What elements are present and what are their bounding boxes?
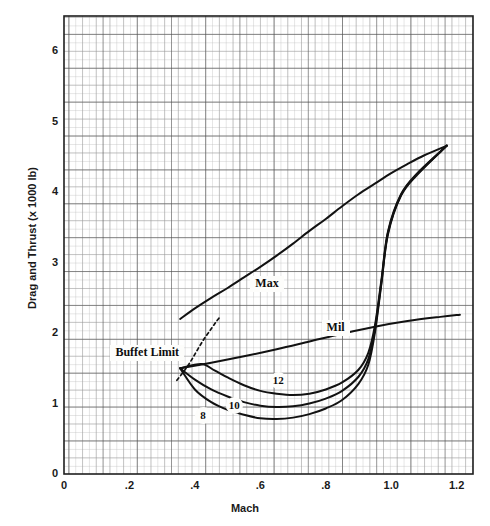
y-tick-0: 0 [38,467,58,479]
y-tick-2: 2 [38,326,58,338]
x-tick-1p0: 1.0 [376,479,406,491]
x-axis-title: Mach [0,502,490,514]
x-tick-p6: .6 [245,479,275,491]
drag-and-thrust-chart: Drag and Thrust (x 1000 lb) Mach 0123456… [0,0,490,526]
curve-label-10: 10 [226,397,243,414]
y-tick-5: 5 [38,115,58,127]
curve-label-mil: Mil [322,320,350,336]
y-tick-1: 1 [38,397,58,409]
curve-label-buffet-limit: Buffet Limit [110,345,184,361]
y-tick-4: 4 [38,185,58,197]
chart-plot-area [0,0,490,526]
curve-label-8: 8 [195,407,212,424]
y-tick-6: 6 [38,44,58,56]
x-tick-1p2: 1.2 [442,479,472,491]
curve-label-max: Max [250,276,283,292]
x-tick-p4: .4 [180,479,210,491]
y-axis-title: Drag and Thrust (x 1000 lb) [26,158,38,318]
grid-layer [64,16,473,474]
x-tick-0: 0 [49,479,79,491]
y-tick-3: 3 [38,256,58,268]
x-tick-p2: .2 [114,479,144,491]
x-tick-p8: .8 [311,479,341,491]
